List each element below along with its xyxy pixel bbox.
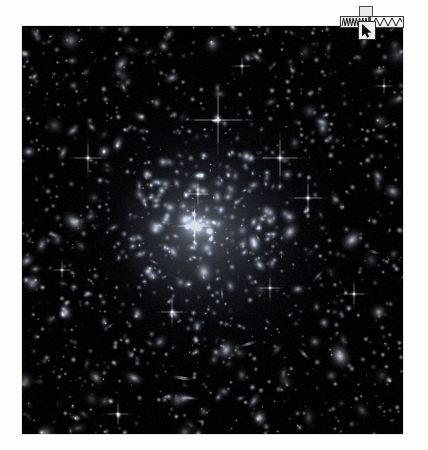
- pointer-tool-button[interactable]: [358, 21, 376, 40]
- overlay-toolbar[interactable]: [340, 6, 404, 44]
- cursor-arrow-icon: [361, 24, 373, 38]
- starfield-canvas: [22, 26, 403, 434]
- widget-mini-label: [359, 6, 373, 17]
- page-root: [0, 0, 428, 450]
- galaxy-cluster-image: [22, 26, 403, 434]
